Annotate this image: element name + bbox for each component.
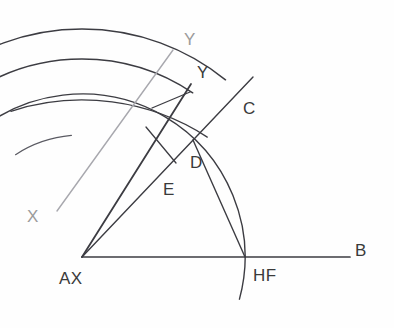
ray-AX-through-Y bbox=[82, 84, 191, 257]
ray-AX-through-C bbox=[82, 77, 253, 257]
label-c: C bbox=[243, 99, 256, 118]
label-d: D bbox=[190, 153, 203, 172]
middle-arc bbox=[0, 59, 193, 93]
tick-near-D bbox=[152, 92, 190, 108]
label-y-upper: Y bbox=[184, 30, 196, 49]
label-b: B bbox=[355, 241, 367, 260]
label-ax: AX bbox=[59, 269, 83, 288]
diagram-canvas: YYCDEXBAXHF bbox=[0, 0, 394, 328]
label-x: X bbox=[27, 207, 39, 226]
label-y-lower: Y bbox=[197, 63, 209, 82]
label-e: E bbox=[163, 180, 175, 199]
label-layer: YYCDEXBAXHF bbox=[27, 30, 367, 288]
geometry-diagram: YYCDEXBAXHF bbox=[0, 0, 394, 328]
axis-line-X-to-Y bbox=[57, 50, 173, 211]
label-hf: HF bbox=[253, 266, 277, 285]
small-arc-near-E bbox=[16, 135, 72, 154]
